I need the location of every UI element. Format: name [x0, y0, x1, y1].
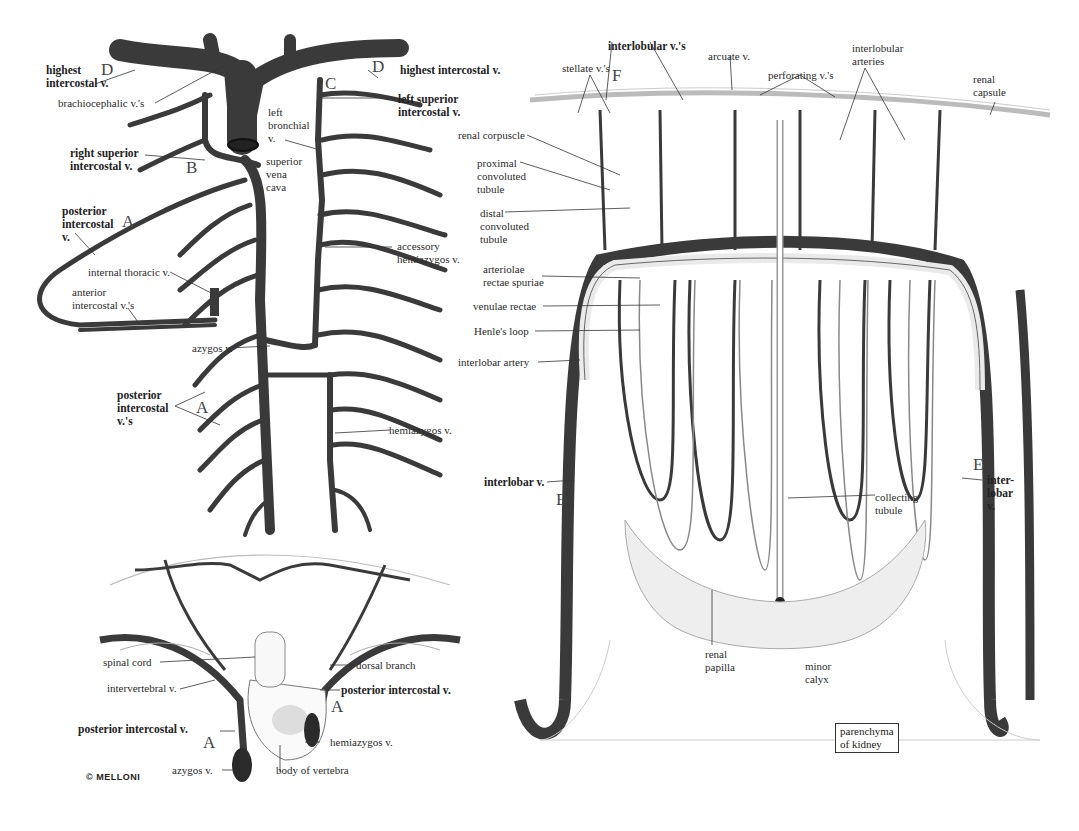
label-venulae-rectae: venulae rectae	[473, 300, 536, 313]
label-interlobar-v-left: interlobar v.	[484, 476, 544, 489]
marker-F: F	[612, 66, 621, 86]
marker-D-right: D	[372, 57, 384, 77]
label-arteriolae-rectae: arteriolae rectae spuriae	[483, 263, 544, 289]
label-brachiocephalic: brachiocephalic v.'s	[58, 97, 144, 110]
label-superior-vena-cava: superior vena cava	[266, 155, 302, 194]
label-posterior-intercostal-right: posterior intercostal v.	[341, 684, 451, 697]
label-distal-convoluted: distal convoluted tubule	[480, 207, 529, 246]
marker-A-upper: A	[122, 212, 134, 232]
label-henles-loop: Henle's loop	[474, 325, 529, 338]
label-body-of-vertebra: body of vertebra	[276, 764, 349, 777]
label-anterior-intercostal: anterior intercostal v.'s	[72, 286, 134, 312]
label-highest-intercostal-left: highest intercostal v.	[46, 64, 108, 90]
label-parenchyma-box: parenchyma of kidney	[835, 723, 899, 753]
label-interlobular-arteries: interlobular arteries	[852, 42, 903, 68]
marker-E-left: E	[556, 490, 566, 510]
label-interlobar-artery: interlobar artery	[458, 356, 529, 369]
label-highest-intercostal-right: highest intercostal v.	[400, 64, 500, 77]
label-collecting-tubule: collecting tubule	[875, 491, 918, 517]
marker-C: C	[325, 74, 336, 94]
label-minor-calyx: minor calyx	[805, 660, 831, 686]
label-hemiazygos-section: hemiazygos v.	[330, 736, 393, 749]
label-azygos-section: azygos v.	[172, 764, 213, 777]
label-azygos-thoracic: azygos v.	[192, 342, 233, 355]
marker-B: B	[186, 158, 197, 178]
label-accessory-hemiazygos: accessory hemiazygos v.	[397, 240, 460, 266]
label-right-superior-intercostal: right superior intercostal v.	[70, 147, 139, 173]
label-internal-thoracic: internal thoracic v.	[88, 266, 170, 279]
label-intervertebral: intervertebral v.	[107, 682, 177, 695]
label-left-bronchial: left bronchial v.	[268, 106, 310, 145]
label-renal-corpuscle: renal corpuscle	[458, 129, 525, 142]
label-posterior-intercostal-left: posterior intercostal v.	[78, 723, 188, 736]
label-renal-capsule: renal capsule	[973, 73, 1006, 99]
label-posterior-intercostal-v: posterior intercostal v.	[62, 205, 114, 244]
marker-A-lower: A	[196, 398, 208, 418]
marker-E-right: E	[973, 455, 983, 475]
label-interlobar-v-right: inter- lobar v.	[987, 474, 1014, 513]
label-renal-papilla: renal papilla	[705, 648, 735, 674]
label-perforating: perforating v.'s	[768, 69, 833, 82]
label-proximal-convoluted: proximal convoluted tubule	[477, 157, 526, 196]
label-stellate: stellate v.'s	[562, 62, 610, 75]
anatomy-figure: highest intercostal v. brachiocephalic v…	[0, 0, 1079, 831]
marker-A-section-right: A	[331, 697, 343, 717]
label-hemiazygos-thoracic: hemiazygos v.	[389, 424, 452, 437]
label-arcuate: arcuate v.	[708, 50, 750, 63]
label-left-superior-intercostal: left superior intercostal v.	[398, 93, 460, 119]
label-dorsal-branch: dorsal branch	[356, 659, 416, 672]
marker-D-left: D	[101, 60, 113, 80]
marker-A-section-left: A	[203, 733, 215, 753]
label-spinal-cord: spinal cord	[103, 656, 152, 669]
label-posterior-intercostal-vs: posterior intercostal v.'s	[117, 389, 169, 428]
label-interlobular-vs: interlobular v.'s	[608, 40, 686, 53]
copyright-credit: © MELLONI	[86, 772, 140, 782]
